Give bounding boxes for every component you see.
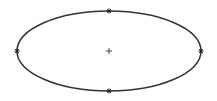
ellipse-diagram	[0, 0, 217, 101]
vertex-marker-bottom[interactable]	[107, 89, 112, 94]
vertex-marker-left[interactable]	[15, 49, 20, 54]
vertex-marker-top[interactable]	[107, 9, 112, 14]
vertex-marker-right[interactable]	[199, 49, 204, 54]
center-plus-marker[interactable]	[106, 48, 112, 54]
